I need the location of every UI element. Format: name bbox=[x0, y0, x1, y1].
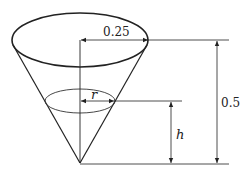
water-radius-label: r bbox=[91, 88, 97, 101]
cone-diagram: 0.25 0.5 r h bbox=[0, 0, 247, 177]
top-radius-label: 0.25 bbox=[103, 26, 130, 38]
height-label: 0.5 bbox=[221, 97, 240, 109]
water-height-label: h bbox=[176, 128, 184, 141]
